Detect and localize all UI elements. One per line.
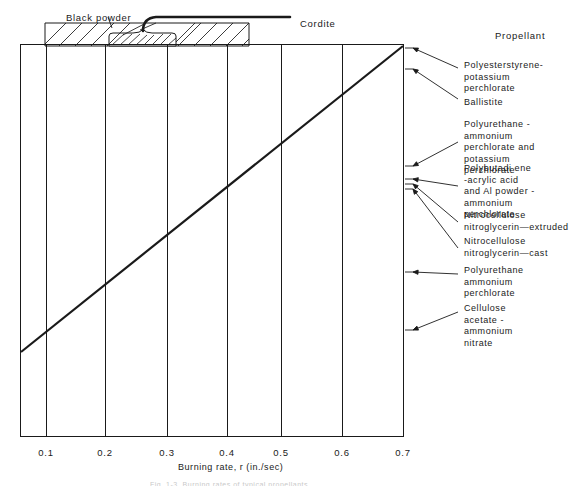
- propellant-callout: Polyesterstyrene-potassiumperchlorate: [464, 60, 543, 95]
- x-tick-label: 0.3: [151, 447, 183, 459]
- propellant-callout-line: Nitrocellulose: [464, 236, 548, 248]
- figure-caption-fragment: Fig. 1-3. Burning rates of typical prope…: [150, 481, 365, 486]
- plot-frame: [21, 45, 404, 437]
- callout-leader-group: [405, 48, 458, 330]
- propellant-callout-line: Polyesterstyrene-: [464, 60, 543, 72]
- propellant-callout-line: ammonium: [464, 277, 524, 289]
- propellant-callout-line: ammonium: [464, 131, 535, 143]
- top-annotation-label: Cordite: [300, 18, 336, 30]
- x-tick-label: 0.4: [211, 447, 243, 459]
- plot-border: [21, 45, 404, 437]
- callout-arrowhead: [413, 326, 418, 330]
- callout-leader-line: [413, 312, 458, 330]
- top-annotation-label: Black powder: [66, 12, 131, 24]
- propellant-callout-line: perchlorate and: [464, 142, 535, 154]
- x-tick-label: 0.6: [326, 447, 358, 459]
- propellant-callout-line: ammonium: [464, 198, 535, 210]
- callout-arrowhead: [413, 48, 418, 52]
- propellant-callout-line: Polyurethane: [464, 265, 524, 277]
- figure-root: Black powderCordite Propellant Polyester…: [0, 0, 580, 490]
- x-tick-label: 0.1: [30, 447, 62, 459]
- x-tick-label: 0.7: [387, 447, 419, 459]
- callout-arrowhead: [413, 189, 418, 194]
- propellant-callout: Celluloseacetate -ammoniumnitrate: [464, 303, 513, 349]
- grain-cross-section: [45, 23, 249, 46]
- propellant-callout: Nitrocellulosenitroglycerin—cast: [464, 236, 548, 259]
- x-gridlines: [47, 45, 343, 437]
- propellant-callout-line: Polyurethane -: [464, 119, 535, 131]
- callout-leader-line: [413, 48, 458, 68]
- callout-leader-line: [413, 69, 458, 99]
- x-tick-label: 0.5: [265, 447, 297, 459]
- propellant-callout-line: perchlorate: [464, 83, 543, 95]
- callout-arrowhead: [413, 162, 418, 166]
- propellant-callout-line: potassium: [464, 72, 543, 84]
- propellant-callout: Polyurethaneammoniumperchlorate: [464, 265, 524, 300]
- callout-arrowhead: [413, 270, 418, 274]
- callout-leader-line: [413, 189, 458, 248]
- grain-hatch-right: [176, 23, 249, 46]
- propellant-callout-line: -acrylic acid: [464, 175, 535, 187]
- propellant-callout-line: nitroglycerin—extruded: [464, 222, 569, 234]
- callout-leader-line: [413, 272, 458, 274]
- callout-leader-line: [413, 184, 458, 222]
- callout-arrowhead: [413, 178, 418, 182]
- callout-arrowhead: [413, 69, 418, 74]
- propellant-callout-line: ammonium: [464, 326, 513, 338]
- propellant-callout-line: and Al powder -: [464, 186, 535, 198]
- propellant-callout-line: nitroglycerin—cast: [464, 248, 548, 260]
- callout-leader-line: [413, 142, 458, 166]
- propellant-callout: Ballistite: [464, 97, 503, 109]
- callout-leader-line: [413, 179, 458, 186]
- propellant-callout-line: acetate -: [464, 315, 513, 327]
- propellant-callout-line: Polybutadi ene: [464, 163, 535, 175]
- propellant-callout-line: Cellulose: [464, 303, 513, 315]
- propellant-callout-line: perchlorate: [464, 288, 524, 300]
- x-tick-label: 0.2: [89, 447, 121, 459]
- propellant-callout-line: Ballistite: [464, 97, 503, 109]
- x-axis-title: Burning rate, r (in./sec): [178, 462, 283, 474]
- propellant-callout-line: Nitrocellulose: [464, 210, 569, 222]
- propellant-callout-line: nitrate: [464, 338, 513, 350]
- propellant-column-header: Propellant: [495, 30, 545, 42]
- burning-rate-line: [21, 46, 403, 352]
- propellant-callout: Nitrocellulosenitroglycerin—extruded: [464, 210, 569, 233]
